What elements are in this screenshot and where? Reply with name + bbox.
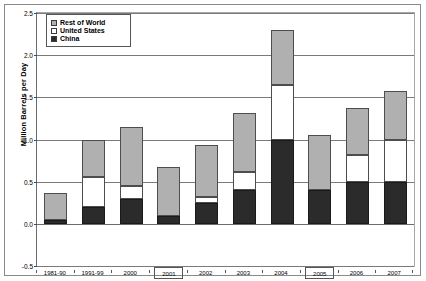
- bar-segment-rest-of-world: [195, 145, 218, 196]
- bar-segment-rest-of-world: [308, 135, 331, 190]
- bar-series-layer: [37, 13, 414, 266]
- legend-label-rest-of-world: Rest of World: [60, 19, 105, 26]
- y-tick-label--0.5: -0.5: [22, 263, 33, 270]
- x-axis-label-2005: 2005: [305, 267, 334, 279]
- legend-label-united-states: United States: [60, 27, 105, 34]
- bar-2007[interactable]: [384, 91, 407, 223]
- y-tick-label-0.5: 0.5: [24, 178, 33, 185]
- bar-segment-united-states: [120, 186, 143, 199]
- bar-segment-rest-of-world: [44, 193, 67, 220]
- bar-2002[interactable]: [195, 145, 218, 223]
- bar-2006[interactable]: [346, 108, 369, 224]
- x-tick-mark: [149, 270, 150, 273]
- bar-2003[interactable]: [233, 113, 256, 224]
- y-tick-label-2.5: 2.5: [24, 10, 33, 17]
- x-axis-label-2006: 2006: [338, 270, 376, 276]
- bar-segment-china: [157, 216, 180, 224]
- bar-segment-united-states: [271, 85, 294, 140]
- legend-swatch-china-icon: [51, 36, 57, 42]
- x-axis-label-1991-99: 1991-99: [74, 270, 112, 276]
- bar-segment-united-states: [233, 172, 256, 191]
- bar-segment-china: [82, 207, 105, 224]
- x-tick-mark: [412, 270, 413, 273]
- y-tick-label-1.0: 1.0: [24, 136, 33, 143]
- x-axis-label-2002: 2002: [187, 270, 225, 276]
- bar-segment-rest-of-world: [271, 30, 294, 85]
- x-axis-label-2001: 2001: [154, 267, 183, 279]
- y-tick-mark: [34, 266, 37, 267]
- x-axis-label-1981-90: 1981-90: [36, 270, 74, 276]
- legend-item-united-states[interactable]: United States: [51, 27, 126, 34]
- legend-item-rest-of-world[interactable]: Rest of World: [51, 19, 126, 26]
- legend-swatch-united-states-icon: [51, 28, 57, 34]
- bar-segment-china: [308, 190, 331, 224]
- bar-segment-rest-of-world: [157, 167, 180, 217]
- bar-segment-rest-of-world: [233, 113, 256, 172]
- chart-root: Million Barrels per Day -0.50.00.51.01.5…: [0, 0, 426, 281]
- chart-legend: Rest of World United States China: [46, 14, 131, 47]
- bar-segment-rest-of-world: [346, 108, 369, 154]
- bar-2001[interactable]: [157, 167, 180, 224]
- bar-1981-90[interactable]: [44, 193, 67, 224]
- legend-item-china[interactable]: China: [51, 35, 126, 42]
- x-axis-label-2007: 2007: [375, 270, 413, 276]
- x-tick-mark: [300, 270, 301, 273]
- bar-segment-china: [44, 220, 67, 224]
- y-tick-label-0.0: 0.0: [24, 220, 33, 227]
- bar-segment-united-states: [346, 155, 369, 182]
- bar-segment-china: [120, 199, 143, 224]
- bar-2000[interactable]: [120, 127, 143, 224]
- bar-2004[interactable]: [271, 30, 294, 224]
- y-tick-label-1.5: 1.5: [24, 94, 33, 101]
- x-axis-labels: 1981-901991-9920002001200220032004200520…: [36, 270, 415, 281]
- y-tick-label-2.0: 2.0: [24, 52, 33, 59]
- gridline--0.5: [37, 266, 414, 267]
- bar-segment-rest-of-world: [82, 140, 105, 178]
- legend-swatch-rest-of-world-icon: [51, 20, 57, 26]
- bar-segment-rest-of-world: [120, 127, 143, 186]
- bar-segment-china: [384, 182, 407, 224]
- x-axis-label-2003: 2003: [225, 270, 263, 276]
- bar-segment-rest-of-world: [384, 91, 407, 139]
- x-axis-label-2004: 2004: [262, 270, 300, 276]
- bar-segment-united-states: [82, 177, 105, 207]
- bar-segment-china: [346, 182, 369, 224]
- x-axis-label-2000: 2000: [111, 270, 149, 276]
- bar-segment-china: [271, 140, 294, 224]
- bar-segment-united-states: [384, 140, 407, 182]
- bar-2005[interactable]: [308, 135, 331, 224]
- bar-1991-99[interactable]: [82, 140, 105, 224]
- plot-area: -0.50.00.51.01.52.02.5: [36, 12, 415, 267]
- legend-label-china: China: [60, 35, 79, 42]
- bar-segment-china: [233, 190, 256, 224]
- bar-segment-china: [195, 203, 218, 224]
